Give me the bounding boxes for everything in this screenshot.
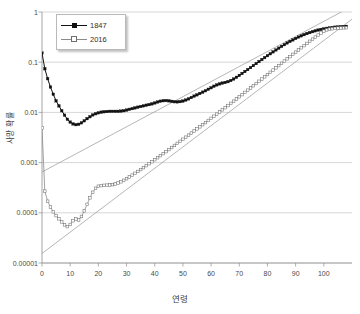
data-point bbox=[193, 130, 196, 133]
legend-marker-open-square-icon bbox=[61, 34, 87, 44]
data-point bbox=[86, 203, 89, 206]
data-point bbox=[230, 102, 233, 105]
data-point bbox=[193, 95, 196, 98]
data-point bbox=[232, 100, 235, 103]
data-point bbox=[151, 160, 154, 163]
data-point bbox=[162, 152, 165, 155]
data-point bbox=[100, 184, 103, 187]
data-point bbox=[297, 36, 300, 39]
data-point bbox=[244, 91, 247, 94]
data-point bbox=[255, 82, 258, 85]
data-point bbox=[120, 180, 123, 183]
data-point bbox=[297, 49, 300, 52]
data-point bbox=[221, 82, 224, 85]
data-point bbox=[63, 114, 66, 117]
data-point bbox=[213, 85, 216, 88]
data-series-layer bbox=[41, 25, 348, 228]
data-point bbox=[139, 168, 142, 171]
data-point bbox=[41, 52, 44, 55]
data-point bbox=[139, 105, 142, 108]
x-tick-label: 30 bbox=[123, 270, 131, 277]
legend-item-2016[interactable]: 2016 bbox=[61, 32, 107, 46]
data-point bbox=[320, 32, 323, 35]
data-point bbox=[306, 42, 309, 45]
data-point bbox=[289, 55, 292, 58]
y-tick-label: 0.00001 bbox=[13, 260, 38, 267]
data-point bbox=[227, 104, 230, 107]
data-point bbox=[182, 100, 185, 103]
data-point bbox=[176, 142, 179, 145]
data-point bbox=[201, 91, 204, 94]
data-point bbox=[122, 109, 125, 112]
data-point bbox=[249, 66, 252, 69]
data-point bbox=[227, 80, 230, 83]
data-point bbox=[280, 45, 283, 48]
data-point bbox=[184, 136, 187, 139]
data-point bbox=[46, 200, 49, 203]
data-point bbox=[339, 27, 342, 30]
data-point bbox=[263, 75, 266, 78]
data-point bbox=[153, 102, 156, 105]
data-point bbox=[224, 106, 227, 109]
data-point bbox=[207, 88, 210, 91]
chart-canvas: 10.10.010.0010.00010.00001 0102030405060… bbox=[0, 0, 360, 314]
data-point bbox=[66, 225, 69, 228]
data-point bbox=[294, 51, 297, 54]
data-point bbox=[286, 42, 289, 45]
data-point bbox=[179, 140, 182, 143]
data-point bbox=[117, 182, 120, 185]
data-point bbox=[204, 89, 207, 92]
data-point bbox=[58, 105, 61, 108]
data-point bbox=[308, 40, 311, 43]
data-point bbox=[272, 69, 275, 72]
data-point bbox=[224, 81, 227, 84]
data-point bbox=[311, 30, 314, 33]
data-point bbox=[173, 144, 176, 147]
data-point bbox=[328, 28, 331, 31]
data-point bbox=[199, 125, 202, 128]
data-point bbox=[114, 183, 117, 186]
data-point bbox=[125, 109, 128, 112]
data-point bbox=[156, 156, 159, 159]
data-point bbox=[303, 44, 306, 47]
data-point bbox=[128, 108, 131, 111]
data-point bbox=[286, 58, 289, 61]
data-point bbox=[235, 98, 238, 101]
data-point bbox=[241, 72, 244, 75]
data-point bbox=[69, 223, 72, 226]
data-point bbox=[165, 99, 168, 102]
data-point bbox=[168, 100, 171, 103]
y-tick-label: 0.0001 bbox=[17, 209, 39, 216]
data-point bbox=[41, 127, 44, 130]
data-point bbox=[60, 221, 63, 224]
data-point bbox=[283, 43, 286, 46]
data-point bbox=[165, 150, 168, 153]
data-point bbox=[75, 218, 78, 221]
gompertz-2016 bbox=[42, 19, 352, 253]
data-point bbox=[232, 78, 235, 81]
data-point bbox=[86, 117, 89, 120]
data-point bbox=[108, 110, 111, 113]
data-point bbox=[60, 109, 63, 112]
x-tick-label: 10 bbox=[66, 270, 74, 277]
x-tick-label: 20 bbox=[94, 270, 102, 277]
data-point bbox=[145, 104, 148, 107]
data-point bbox=[162, 99, 165, 102]
data-point bbox=[106, 110, 109, 113]
data-point bbox=[325, 29, 328, 32]
data-point bbox=[80, 215, 83, 218]
y-tick-label: 0.01 bbox=[24, 109, 38, 116]
data-point bbox=[258, 60, 261, 63]
data-point bbox=[94, 112, 97, 115]
data-point bbox=[294, 37, 297, 40]
data-point bbox=[49, 206, 52, 209]
x-axis-title: 연령 bbox=[0, 292, 360, 304]
data-point bbox=[77, 219, 80, 222]
data-point bbox=[83, 210, 86, 213]
legend-item-1847[interactable]: 1847 bbox=[61, 18, 107, 32]
mortality-chart: 10.10.010.0010.00010.00001 0102030405060… bbox=[0, 0, 360, 314]
data-point bbox=[235, 76, 238, 79]
data-point bbox=[148, 162, 151, 165]
data-point bbox=[218, 83, 221, 86]
data-point bbox=[187, 98, 190, 101]
